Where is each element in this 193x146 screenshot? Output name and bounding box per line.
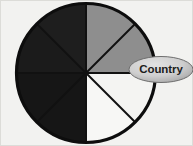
pie-chart-figure xyxy=(1,1,193,146)
figure-canvas: Country xyxy=(0,0,193,146)
country-callout-ellipse[interactable] xyxy=(129,57,193,83)
